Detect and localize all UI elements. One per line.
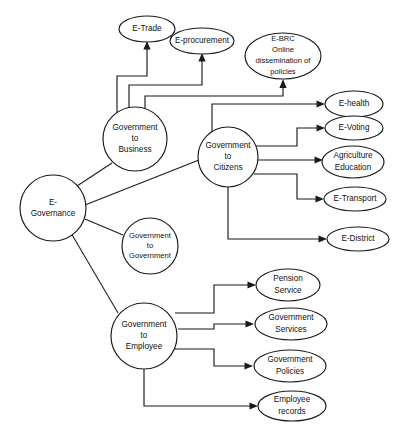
- node-pension-label-line1: Pension: [273, 274, 303, 283]
- arrowhead-e-transport: [316, 195, 325, 202]
- node-e-procurement-label: E-procurement: [175, 36, 230, 45]
- node-government-to-government[interactable]: Government to Government: [122, 218, 178, 274]
- node-government-policies[interactable]: Government Policies: [254, 350, 326, 382]
- node-government-to-employee[interactable]: Government to Employee: [111, 303, 177, 369]
- node-g2c-label-line3: Citizens: [213, 163, 242, 172]
- node-government-to-business[interactable]: Government to Business: [103, 107, 167, 171]
- node-employee-records[interactable]: Employee records: [258, 391, 326, 421]
- node-agriculture-label-line1: Agriculture: [333, 151, 373, 160]
- node-gov-policies-label-line1: Government: [267, 355, 313, 364]
- node-g2c-label-line1: Government: [205, 141, 251, 150]
- node-government-to-citizens[interactable]: Government to Citizens: [198, 127, 258, 187]
- node-gov-policies-label-line2: Policies: [276, 367, 304, 376]
- node-g2b-label-line2: to: [132, 134, 139, 143]
- node-g2c-label-line2: to: [225, 152, 232, 161]
- edge-g2e-to-government-policies: [175, 349, 246, 366]
- arrowhead-employee-records: [250, 402, 259, 409]
- node-e-transport-label: E-Transport: [334, 194, 378, 203]
- node-e-trade-label: E-Trade: [132, 24, 162, 33]
- node-e-brc[interactable]: E-BRC Online dissemination of policies: [245, 33, 321, 79]
- node-government-services[interactable]: Government Services: [255, 308, 327, 340]
- node-e-governance-label-line2: Governance: [31, 209, 76, 218]
- node-e-transport[interactable]: E-Transport: [324, 187, 386, 211]
- edge-g2e-to-employee-records: [144, 369, 251, 406]
- arrowhead-e-health: [317, 100, 326, 107]
- node-e-district[interactable]: E-District: [327, 227, 389, 251]
- node-g2b-label-line1: Government: [112, 123, 158, 132]
- arrowhead-government-services: [246, 320, 255, 327]
- node-agriculture-label-line2: Education: [335, 163, 372, 172]
- edge-root-to-g2b: [77, 163, 112, 186]
- node-e-health-label: E-health: [339, 99, 370, 108]
- node-g2e-label-line3: Employee: [126, 342, 163, 351]
- node-e-procurement[interactable]: E-procurement: [170, 28, 234, 54]
- node-gov-services-label-line1: Government: [268, 313, 314, 322]
- node-pension-service[interactable]: Pension Service: [256, 269, 320, 301]
- diagram-canvas: E- Governance Government to Business Gov…: [0, 0, 406, 435]
- node-e-governance-label-line1: E-: [49, 198, 57, 207]
- node-e-brc-label-line4: policies: [270, 67, 296, 76]
- node-e-health[interactable]: E-health: [325, 91, 383, 117]
- node-employee-records-label-line1: Employee: [274, 395, 311, 404]
- edge-g2e-to-government-services: [178, 324, 247, 329]
- node-g2e-label-line2: to: [141, 331, 148, 340]
- arrowhead-pension-service: [248, 281, 257, 288]
- edge-g2c-to-e-district: [228, 186, 320, 239]
- arrowhead-e-brc: [279, 79, 286, 88]
- arrowhead-e-voting: [317, 124, 326, 131]
- node-employee-records-label-line2: records: [278, 407, 305, 416]
- node-e-trade[interactable]: E-Trade: [119, 16, 175, 42]
- edge-root-to-g2e: [71, 233, 118, 313]
- node-e-brc-label-line1: E-BRC: [271, 34, 295, 43]
- edge-g2c-to-e-transport: [254, 174, 317, 199]
- node-gov-services-label-line2: Services: [275, 325, 306, 334]
- egovernance-diagram: E- Governance Government to Business Gov…: [0, 0, 406, 435]
- node-e-district-label: E-District: [341, 234, 375, 243]
- node-g2g-label-line3: Government: [129, 251, 172, 260]
- node-e-governance[interactable]: E- Governance: [20, 175, 86, 241]
- edge-g2c-to-e-voting: [256, 128, 318, 146]
- node-g2b-label-line3: Business: [118, 145, 151, 154]
- node-e-governance-shape: [20, 175, 86, 241]
- edge-g2e-to-pension-service: [175, 285, 249, 313]
- node-g2g-label-line2: to: [147, 241, 153, 250]
- arrowhead-e-district: [319, 235, 328, 242]
- edge-g2b-to-e-brc: [145, 87, 283, 109]
- node-pension-label-line2: Service: [274, 286, 302, 295]
- node-e-voting[interactable]: E-Voting: [325, 116, 383, 140]
- node-e-brc-label-line2: Online: [272, 45, 294, 54]
- arrowhead-government-policies: [245, 362, 254, 369]
- edge-root-to-g2g: [85, 219, 123, 235]
- edge-g2b-to-e-procurement: [129, 60, 202, 110]
- node-agriculture-education[interactable]: Agriculture Education: [322, 146, 384, 178]
- node-g2e-label-line1: Government: [121, 320, 167, 329]
- node-e-brc-label-line3: dissemination of: [256, 56, 312, 65]
- node-g2g-label-line1: Government: [129, 231, 172, 240]
- node-e-voting-label: E-Voting: [339, 123, 370, 132]
